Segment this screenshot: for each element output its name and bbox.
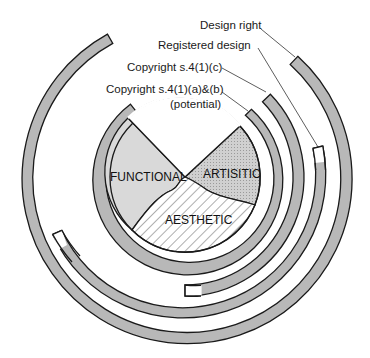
copyright-c-label: Copyright s.4(1)(c) xyxy=(127,61,222,73)
copyright-ab-potential-label: (potential) xyxy=(170,98,221,110)
ip-protection-diagram: FUNCTIONAL ARTISITIC AESTHETIC Design ri… xyxy=(0,0,370,358)
functional-label: FUNCTIONAL xyxy=(110,170,187,184)
artistic-label: ARTISITIC xyxy=(203,167,261,181)
aesthetic-label: AESTHETIC xyxy=(165,213,233,227)
design-right-label: Design right xyxy=(200,19,262,31)
copyright-ab-label: Copyright s.4(1)(a)&(b) xyxy=(106,83,224,95)
registered-design-label: Registered design xyxy=(158,39,251,51)
